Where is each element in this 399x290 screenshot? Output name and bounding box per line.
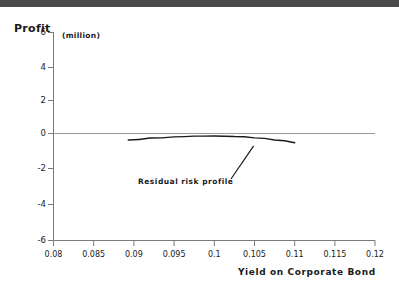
y-tick-label: -2 [18,163,46,173]
y-tick-label: 6 [18,27,46,37]
y-axis-unit-label: (million) [62,31,100,40]
y-tick-label: 0 [18,128,46,138]
x-tick-label: 0.105 [233,250,277,259]
y-tick-label: 2 [18,95,46,105]
y-tick-label: -6 [18,235,46,245]
x-tick-label: 0.085 [72,250,116,259]
x-axis-title: Yield on Corporate Bond [238,267,376,277]
x-tick-label: 0.11 [273,250,317,259]
x-tick-label: 0.08 [32,250,76,259]
chart-figure: Profit (million) Yield on Corporate Bond… [0,0,399,290]
plot-area [0,0,399,290]
y-tick-label: -4 [18,199,46,209]
x-tick-marks [54,241,376,247]
series-line-residual-risk-profile [128,136,294,143]
y-tick-label: 4 [18,62,46,72]
x-tick-label: 0.12 [353,250,397,259]
x-tick-label: 0.09 [112,250,156,259]
y-tick-marks [48,33,54,241]
annotation-label-residual-risk-profile: Residual risk profile [138,177,233,186]
x-tick-label: 0.115 [313,250,357,259]
x-tick-label: 0.1 [192,250,236,259]
x-tick-label: 0.095 [152,250,196,259]
annotation-leader-line [231,146,254,179]
